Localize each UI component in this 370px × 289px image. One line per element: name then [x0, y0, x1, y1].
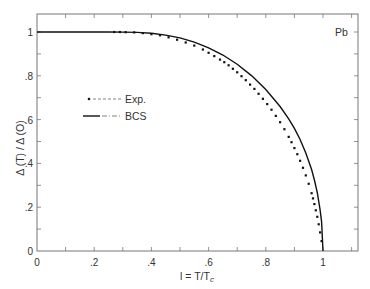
- exp-point: [202, 48, 204, 50]
- legend-exp-label: Exp.: [125, 93, 146, 105]
- exp-point: [119, 31, 121, 33]
- exp-point: [142, 32, 144, 34]
- exp-point: [253, 88, 255, 90]
- exp-point: [305, 174, 307, 176]
- exp-point: [113, 31, 115, 33]
- exp-point: [176, 39, 178, 41]
- legend: Exp. BCS: [83, 93, 147, 122]
- exp-point: [240, 75, 242, 77]
- exp-point: [296, 153, 298, 155]
- x-axis-label-subscript: c: [210, 275, 214, 284]
- exp-point: [249, 84, 251, 86]
- exp-point: [219, 59, 221, 61]
- exp-point: [228, 64, 230, 66]
- y-tick-label: .2: [25, 202, 34, 213]
- exp-point: [299, 160, 301, 162]
- x-tick-label: 1: [320, 257, 326, 268]
- bcs-curve: [37, 32, 323, 251]
- exp-point: [316, 216, 318, 218]
- legend-bcs-label: BCS: [125, 110, 147, 122]
- exp-point: [312, 197, 314, 199]
- x-tick-label: .2: [90, 257, 99, 268]
- exp-point: [193, 45, 195, 47]
- y-axis-label: Δ (T) / Δ (O): [14, 120, 26, 175]
- exp-point: [319, 231, 321, 233]
- chart: 0.2.4.6.81 0.2.4.6.81 Pb Exp. BCS l = T/…: [0, 0, 370, 289]
- exp-point: [313, 203, 315, 205]
- exp-point: [308, 183, 310, 185]
- exp-point: [185, 41, 187, 43]
- exp-point: [318, 223, 320, 225]
- exp-point: [125, 31, 127, 33]
- exp-point: [133, 31, 135, 33]
- exp-point: [290, 141, 292, 143]
- exp-point: [279, 121, 281, 123]
- exp-point: [315, 209, 317, 211]
- exp-point: [213, 55, 215, 57]
- exp-point: [270, 109, 272, 111]
- exp-point: [258, 93, 260, 95]
- x-tick-labels: 0.2.4.6.81: [34, 257, 326, 268]
- x-tick-label: 0: [34, 257, 40, 268]
- exp-point: [302, 167, 304, 169]
- y-tick-label: .8: [25, 71, 34, 82]
- x-tick-label: .4: [147, 257, 156, 268]
- exp-point: [223, 61, 225, 63]
- exp-point: [245, 79, 247, 81]
- exp-point: [311, 192, 313, 194]
- exp-point: [208, 52, 210, 54]
- exp-point: [283, 128, 285, 130]
- exp-point: [266, 103, 268, 105]
- y-tick-label: 1: [27, 27, 33, 38]
- y-tick-label: 0: [27, 246, 33, 257]
- exp-point: [150, 33, 152, 35]
- axis-ticks: [37, 14, 358, 251]
- exp-point: [293, 147, 295, 149]
- plot-frame: [37, 14, 358, 251]
- exp-point: [168, 36, 170, 38]
- exp-point: [288, 136, 290, 138]
- exp-points: [113, 31, 323, 242]
- exp-point: [232, 68, 234, 70]
- legend-exp-marker: [88, 98, 91, 101]
- x-axis-label-main: l = T/T: [180, 270, 210, 282]
- x-axis-label: l = T/Tc: [180, 270, 214, 284]
- x-tick-label: .6: [204, 257, 213, 268]
- exp-point: [236, 71, 238, 73]
- exp-point: [275, 115, 277, 117]
- exp-point: [321, 240, 323, 242]
- exp-point: [262, 98, 264, 100]
- material-annotation: Pb: [335, 26, 348, 38]
- x-tick-label: .8: [262, 257, 271, 268]
- exp-point: [159, 34, 161, 36]
